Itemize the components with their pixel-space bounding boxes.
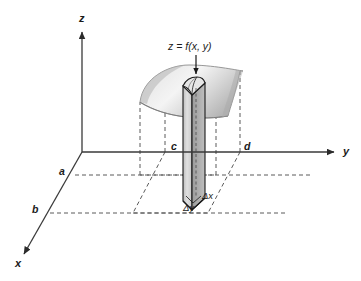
guide-line-c — [133, 152, 165, 213]
bound-label-d: d — [244, 141, 250, 152]
delta-x-label: Δx — [202, 191, 213, 201]
delta-y-label: Δy — [183, 203, 194, 213]
bound-label-a: a — [59, 166, 65, 177]
base-region-guides — [50, 152, 310, 213]
coordinate-axes — [24, 32, 334, 254]
bound-label-c: c — [171, 141, 177, 152]
x-axis-label: x — [15, 258, 21, 269]
surface-equation-label: z = f(x, y) — [168, 41, 211, 52]
y-axis-label: y — [343, 146, 349, 157]
guide-line-d — [208, 152, 240, 213]
column-left-face — [183, 86, 192, 210]
bound-label-b: b — [32, 204, 38, 215]
z-axis-label: z — [79, 13, 85, 24]
figure-container: z y x a b c d Δx Δy z = f(x, y) — [0, 0, 361, 281]
